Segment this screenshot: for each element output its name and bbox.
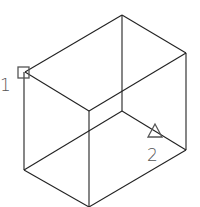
edge-bottom-front-left: [24, 170, 89, 207]
box-diagram: 1 2: [0, 0, 200, 207]
edge-top-front-left: [25, 72, 89, 111]
edge-top-back-right: [122, 15, 186, 53]
point-1-label: 1: [0, 75, 11, 95]
edge-bottom-front-right: [89, 150, 186, 207]
edge-bottom-back-left: [24, 111, 122, 170]
point-2-label: 2: [147, 145, 158, 165]
edge-top-front-right: [89, 53, 186, 111]
edge-top-back-left: [25, 15, 122, 72]
